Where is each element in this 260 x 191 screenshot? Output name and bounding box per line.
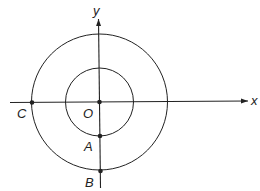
diagram-canvas: y x O A B C xyxy=(0,0,260,191)
x-axis-label: x xyxy=(250,93,258,108)
point-o xyxy=(97,100,102,105)
label-b: B xyxy=(85,175,94,190)
label-o: O xyxy=(83,106,93,121)
point-b xyxy=(98,169,103,174)
label-c: C xyxy=(17,106,27,121)
point-c xyxy=(30,100,35,105)
point-a xyxy=(98,134,103,139)
x-axis xyxy=(10,101,248,103)
label-a: A xyxy=(83,139,93,154)
y-axis-label: y xyxy=(92,3,101,18)
